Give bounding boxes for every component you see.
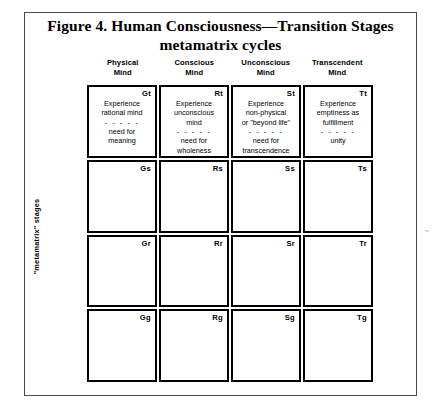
cell-experience-line: Experience xyxy=(91,99,153,108)
cell-experience-line: fulfillment xyxy=(307,118,369,127)
cell-code-label: Rs xyxy=(213,164,223,173)
cell-code-label: St xyxy=(287,89,295,98)
matrix-cell-ss[interactable]: Ss xyxy=(231,160,301,233)
column-header-line-2: Mind xyxy=(159,68,231,78)
cell-need-line: need for xyxy=(235,136,297,145)
figure-title: Figure 4. Human Consciousness—Transition… xyxy=(24,16,417,54)
cell-code-label: Gr xyxy=(142,239,151,248)
matrix-cell-sr[interactable]: Sr xyxy=(231,235,301,308)
matrix-cell-tg[interactable]: Tg xyxy=(303,309,373,382)
matrix-cell-gs[interactable]: Gs xyxy=(87,160,157,233)
cell-need-line: need for xyxy=(163,136,225,145)
matrix-cell-rs[interactable]: Rs xyxy=(159,160,229,233)
cell-need-line: need for xyxy=(91,127,153,136)
cell-code-label: Tr xyxy=(359,239,367,248)
matrix-row: GrRrSrTr xyxy=(87,235,373,308)
matrix-cell-rg[interactable]: Rg xyxy=(159,309,229,382)
matrix-cell-ts[interactable]: Ts xyxy=(303,160,373,233)
column-header-line-1: Transcendent xyxy=(302,58,374,68)
cell-body-text: Experiencerational mind- - - - -need for… xyxy=(91,99,153,146)
cell-need-line: transcendence xyxy=(235,146,297,155)
column-header-4: TranscendentMind xyxy=(302,58,374,78)
figure-title-line-2: metamatrix cycles xyxy=(24,35,417,54)
cell-need-line: unity xyxy=(307,136,369,145)
column-header-line-1: Conscious xyxy=(159,58,231,68)
cell-body-text: Experienceemptiness asfulfillment- - - -… xyxy=(307,99,369,146)
column-header-3: UnconsciousMind xyxy=(230,58,302,78)
cell-need-line: wholeness xyxy=(163,146,225,155)
cell-body-text: Experiencenon-physicalor "beyond life"- … xyxy=(235,99,297,155)
row-axis-label: "metamatrix" stages xyxy=(32,177,41,297)
cell-dashed-separator: - - - - - xyxy=(235,127,297,136)
matrix-row: GsRsSsTs xyxy=(87,160,373,233)
matrix-row: GgRgSgTg xyxy=(87,309,373,382)
cell-experience-line: mind xyxy=(163,118,225,127)
cell-experience-line: Experience xyxy=(235,99,297,108)
cell-code-label: Ts xyxy=(358,164,367,173)
column-header-row: PhysicalMindConsciousMindUnconsciousMind… xyxy=(87,58,373,78)
matrix-cell-rr[interactable]: Rr xyxy=(159,235,229,308)
cell-experience-line: non-physical xyxy=(235,108,297,117)
cell-dashed-separator: - - - - - xyxy=(91,118,153,127)
column-header-line-1: Unconscious xyxy=(230,58,302,68)
cell-code-label: Rg xyxy=(212,313,223,322)
cell-code-label: Tt xyxy=(359,89,367,98)
cell-dashed-separator: - - - - - xyxy=(307,127,369,136)
cell-code-label: Gs xyxy=(140,164,151,173)
matrix-cell-tt[interactable]: TtExperienceemptiness asfulfillment- - -… xyxy=(303,85,373,158)
matrix-cell-gt[interactable]: GtExperiencerational mind- - - - -need f… xyxy=(87,85,157,158)
cell-experience-line: emptiness as xyxy=(307,108,369,117)
column-header-line-2: Mind xyxy=(302,68,374,78)
column-header-1: PhysicalMind xyxy=(87,58,159,78)
cell-code-label: Gt xyxy=(142,89,151,98)
metamatrix-grid: GtExperiencerational mind- - - - -need f… xyxy=(87,85,373,376)
page-edge-mark: ~ xyxy=(424,226,429,236)
cell-experience-line: unconscious xyxy=(163,108,225,117)
matrix-cell-tr[interactable]: Tr xyxy=(303,235,373,308)
cell-code-label: Sr xyxy=(286,239,295,248)
cell-code-label: Gg xyxy=(140,313,151,322)
cell-code-label: Rr xyxy=(214,239,223,248)
cell-code-label: Sg xyxy=(285,313,295,322)
cell-dashed-separator: - - - - - xyxy=(163,127,225,136)
matrix-cell-gr[interactable]: Gr xyxy=(87,235,157,308)
matrix-cell-st[interactable]: StExperiencenon-physicalor "beyond life"… xyxy=(231,85,301,158)
column-header-line-2: Mind xyxy=(87,68,159,78)
matrix-cell-gg[interactable]: Gg xyxy=(87,309,157,382)
figure-title-line-1: Figure 4. Human Consciousness—Transition… xyxy=(47,17,393,34)
cell-code-label: Tg xyxy=(357,313,367,322)
cell-need-line: meaning xyxy=(91,136,153,145)
matrix-cell-sg[interactable]: Sg xyxy=(231,309,301,382)
cell-experience-line: or "beyond life" xyxy=(235,118,297,127)
cell-experience-line: rational mind xyxy=(91,108,153,117)
cell-experience-line: Experience xyxy=(163,99,225,108)
cell-experience-line: Experience xyxy=(307,99,369,108)
column-header-line-2: Mind xyxy=(230,68,302,78)
matrix-cell-rt[interactable]: RtExperienceunconsciousmind- - - - -need… xyxy=(159,85,229,158)
cell-code-label: Ss xyxy=(285,164,295,173)
cell-body-text: Experienceunconsciousmind- - - - -need f… xyxy=(163,99,225,155)
column-header-2: ConsciousMind xyxy=(159,58,231,78)
cell-code-label: Rt xyxy=(214,89,223,98)
matrix-row: GtExperiencerational mind- - - - -need f… xyxy=(87,85,373,158)
column-header-line-1: Physical xyxy=(87,58,159,68)
